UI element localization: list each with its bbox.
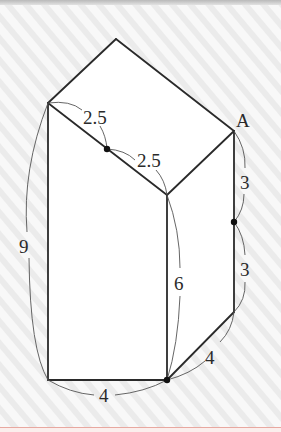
label-bottom-slant: 4: [205, 347, 215, 368]
label-bottom-base: 4: [99, 385, 109, 406]
label-diag-half-1: 2.5: [83, 107, 107, 128]
label-left-height: 9: [19, 236, 29, 257]
right-edge-midpoint-dot: [231, 219, 237, 225]
bottom-strip: [0, 428, 281, 432]
prism-diagram: A 2.5 2.5 9 6 3 3 4 4: [0, 0, 281, 427]
point-label-A: A: [236, 110, 250, 131]
label-right-lower: 3: [240, 259, 250, 280]
label-middle-height: 6: [174, 273, 184, 294]
bottom-vertex-dot: [164, 377, 170, 383]
diagonal-midpoint-dot: [104, 146, 110, 152]
label-right-upper: 3: [240, 172, 250, 193]
label-diag-half-2: 2.5: [137, 150, 161, 171]
